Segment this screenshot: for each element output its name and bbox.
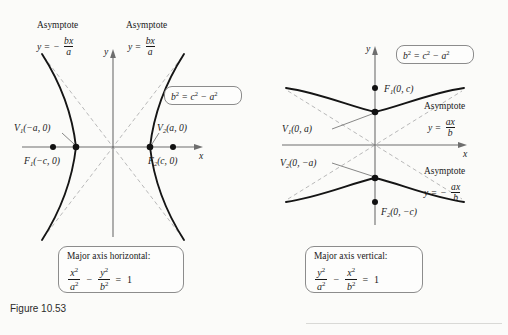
left-focus-2-point bbox=[170, 144, 176, 150]
right-vertex-1-point bbox=[372, 109, 379, 116]
left-focus-1-label: F1(−c, 0) bbox=[23, 155, 60, 167]
right-focus-2-label: F2(0, −c) bbox=[380, 206, 417, 218]
left-y-axis-arrow bbox=[110, 49, 116, 58]
left-vertex-1-point bbox=[73, 144, 80, 151]
right-focus-1-label: F1(0, c) bbox=[383, 83, 413, 95]
right-focus-1-point bbox=[372, 85, 378, 91]
hyperbola-figure-canvas: y x V1(−a, 0) V2(a, 0) F1(−c, 0) F2(c, 0… bbox=[0, 0, 508, 335]
right-vertex-2-point bbox=[372, 175, 379, 182]
left-y-axis-label: y bbox=[103, 46, 109, 57]
left-x-axis-label: x bbox=[198, 150, 204, 161]
right-y-axis-label: y bbox=[365, 43, 371, 54]
right-focus-2-point bbox=[372, 199, 378, 205]
left-focus-2-label: F2(c, 0) bbox=[147, 155, 177, 167]
right-vertex-2-leader bbox=[332, 163, 372, 176]
figure-page: y x V1(−a, 0) V2(a, 0) F1(−c, 0) F2(c, 0… bbox=[0, 0, 508, 335]
right-x-axis-label: x bbox=[462, 148, 468, 159]
right-vertex-2-label: V2(0, −a) bbox=[280, 157, 316, 169]
left-vertex-2-leader bbox=[152, 133, 159, 144]
left-vertex-1-leader bbox=[62, 133, 74, 144]
left-vertex-2-label: V2(a, 0) bbox=[157, 122, 187, 134]
left-focus-1-point bbox=[50, 144, 56, 150]
left-panel-graph: y x V1(−a, 0) V2(a, 0) F1(−c, 0) F2(c, 0… bbox=[14, 46, 204, 240]
right-y-axis-arrow bbox=[372, 46, 378, 55]
right-vertex-1-label: V1(0, a) bbox=[282, 123, 312, 135]
left-vertex-1-label: V1(−a, 0) bbox=[14, 122, 50, 134]
left-vertex-2-point bbox=[147, 144, 154, 151]
right-panel-graph: y x V1(0, a) V2(0, −a) F1(0, c) F2(0, −c… bbox=[280, 43, 468, 225]
